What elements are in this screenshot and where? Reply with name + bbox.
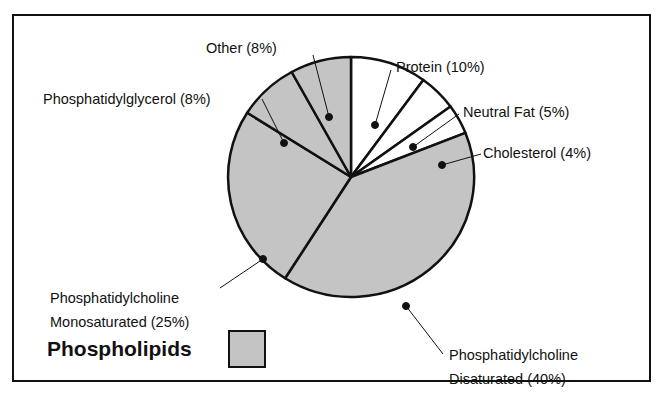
label-neutral-fat: Neutral Fat (5%)	[463, 104, 569, 121]
label-protein: Protein (10%)	[396, 59, 485, 76]
label-pc-disaturated-1: Phosphatidylcholine	[449, 347, 578, 364]
legend-title: Phospholipids	[47, 337, 192, 361]
label-pc-monosaturated-2: Monosaturated (25%)	[50, 314, 189, 331]
label-other: Other (8%)	[206, 40, 277, 57]
label-pc-disaturated-2: Disaturated (40%)	[449, 371, 566, 388]
label-pc-monosaturated-1: Phosphatidylcholine	[50, 290, 179, 307]
legend-swatch-phospholipids	[228, 330, 266, 368]
pie-chart	[0, 0, 665, 393]
label-cholesterol: Cholesterol (4%)	[483, 145, 591, 162]
label-phosphatidylglycerol: Phosphatidylglycerol (8%)	[43, 91, 211, 108]
